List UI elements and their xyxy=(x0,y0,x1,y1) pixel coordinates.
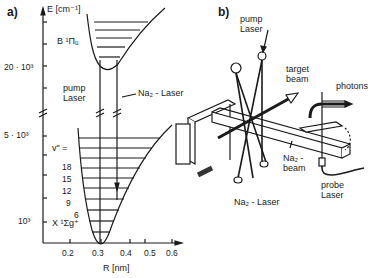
x-axis-label: R [nm] xyxy=(103,263,130,273)
panel-b-label: b) xyxy=(218,5,229,19)
vib-level-6: 6 xyxy=(74,210,79,220)
na2-beam-label: Na₂ - xyxy=(283,153,304,163)
pump-laser-label-b: pump xyxy=(240,14,263,24)
vib-level-15: 15 xyxy=(62,174,71,184)
b-state-label: B ¹Πᵤ xyxy=(57,36,78,46)
pump-laser-label-a2: Laser xyxy=(63,93,86,103)
y-axis-label: E [cm⁻¹] xyxy=(47,4,81,14)
vib-level-12: 12 xyxy=(62,186,71,196)
vib-level-18: 18 xyxy=(62,162,71,172)
y-tick-20e3: 20 · 10³ xyxy=(4,62,33,72)
x-tick-0.2: 0.2 xyxy=(62,248,74,258)
vib-quantum-label: v" = xyxy=(52,143,67,153)
target-beam-label2: beam xyxy=(286,74,309,84)
panel-a-label: a) xyxy=(7,5,18,19)
na2-laser-label-a: Na₂ - Laser xyxy=(138,88,184,98)
x-state-curve xyxy=(78,125,172,244)
pump-laser-label-b2: Laser xyxy=(240,24,263,34)
x-tick-0.5: 0.5 xyxy=(144,248,156,258)
photons-label: photons xyxy=(336,81,368,91)
x-tick-0.4: 0.4 xyxy=(120,248,132,258)
b-state-curve xyxy=(87,8,165,70)
na2-beam-label2: beam xyxy=(283,163,306,173)
target-beam-label: target xyxy=(286,64,309,74)
y-tick-1e3: 10³ xyxy=(18,216,30,226)
y-tick-5e3: 5 · 10³ xyxy=(4,130,29,140)
x-tick-0.3: 0.3 xyxy=(92,248,104,258)
probe-laser-label: probe xyxy=(321,180,344,190)
vib-level-9: 9 xyxy=(66,198,71,208)
pump-laser-label-a: pump xyxy=(63,83,86,93)
x-tick-0.6: 0.6 xyxy=(166,248,178,258)
probe-laser-label2: Laser xyxy=(321,190,344,200)
na2-laser-label-b: Na₂ - Laser xyxy=(234,197,280,207)
